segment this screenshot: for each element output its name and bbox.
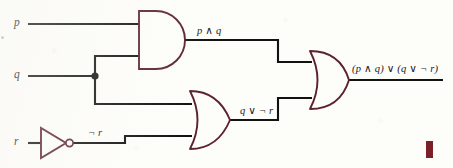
red-margin-marker: [426, 141, 433, 158]
circuit-diagram-figure: p q r p ∧ q q ∨ ¬ r ¬ r (p ∧ q) ∨ (q ∨ ¬…: [0, 0, 453, 168]
wire-and-to-or2: [176, 40, 312, 62]
or-gate-lower: [190, 91, 230, 149]
page-edge-speck: [1, 36, 4, 39]
wire-label-not-output: ¬ r: [88, 128, 102, 139]
input-label-p: p: [14, 17, 20, 29]
wire-label-and-output: p ∧ q: [197, 26, 221, 37]
and-gate: [139, 11, 185, 69]
input-label-r: r: [14, 136, 19, 148]
wire-q-to-or1: [95, 76, 192, 104]
input-label-q: q: [14, 69, 20, 81]
circuit-canvas: [0, 0, 453, 168]
wire-label-or-output: q ∨ ¬ r: [240, 106, 273, 117]
wire-label-final-output: (p ∧ q) ∨ (q ∨ ¬ r): [352, 64, 438, 75]
inversion-bubble-icon: [66, 139, 73, 146]
wire-q-to-and: [95, 56, 139, 76]
or-gate-final: [310, 51, 349, 109]
not-gate: [41, 128, 66, 158]
junction-dot-q: [91, 72, 98, 79]
